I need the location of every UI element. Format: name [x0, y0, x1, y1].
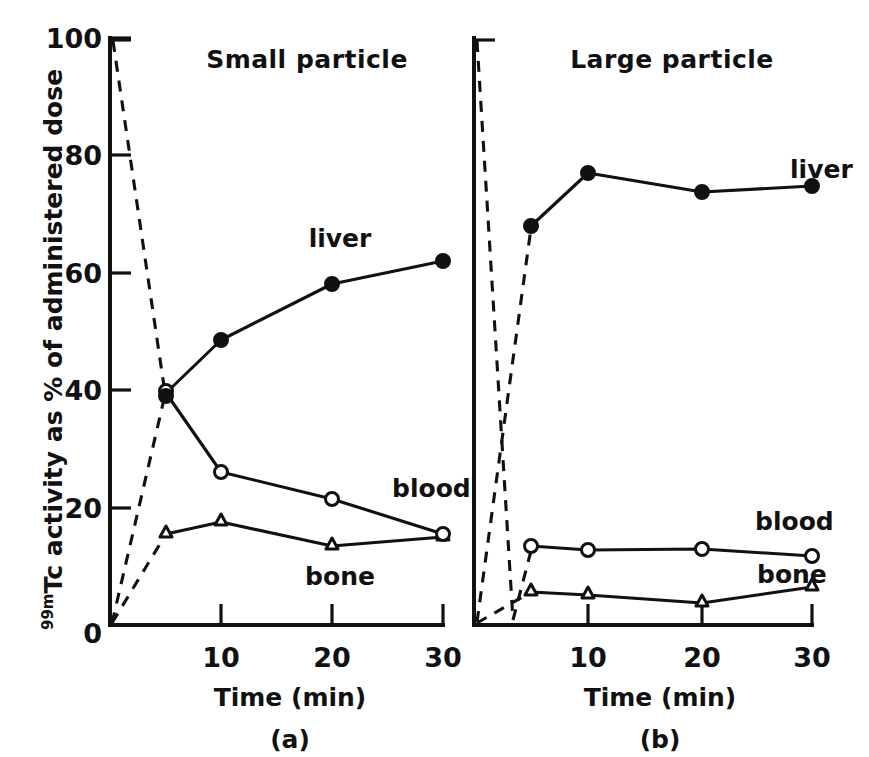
x-tick-label-10: 10: [569, 642, 607, 673]
panel-a-title: Small particle: [206, 45, 408, 74]
panel-a-label-liver: liver: [309, 224, 372, 253]
panel-a-caption: (a): [270, 725, 310, 754]
y-axis-label-superscript: 99m: [39, 593, 57, 630]
panel-b-label-liver: liver: [790, 155, 853, 184]
y-tick-label-100: 100: [46, 23, 102, 54]
panel-a-label-bone: bone: [305, 562, 375, 591]
y-tick-label-40: 40: [64, 375, 102, 406]
y-tick-label-80: 80: [64, 140, 102, 171]
panel-b-x-axis-title: Time (min): [584, 683, 737, 712]
y-tick-label-20: 20: [64, 493, 102, 524]
panel-b-title: Large particle: [570, 45, 774, 74]
x-tick-label-20: 20: [683, 642, 721, 673]
x-tick-label-20: 20: [313, 642, 351, 673]
figure-container: 99mTc activity as % of administered dose…: [0, 0, 869, 757]
x-tick-label-10: 10: [202, 642, 240, 673]
panel-a-label-blood: blood: [392, 474, 471, 503]
panel-b-label-blood: blood: [755, 507, 834, 536]
y-tick-label-60: 60: [64, 258, 102, 289]
panel-b-caption: (b): [640, 725, 681, 754]
x-tick-label-30: 30: [424, 642, 462, 673]
chart-svg: 99mTc activity as % of administered dose…: [0, 0, 869, 757]
panel-a-x-axis-title: Time (min): [214, 683, 367, 712]
panel-b-label-bone: bone: [757, 560, 827, 589]
y-tick-label-0: 0: [83, 618, 102, 649]
x-tick-label-30: 30: [793, 642, 831, 673]
